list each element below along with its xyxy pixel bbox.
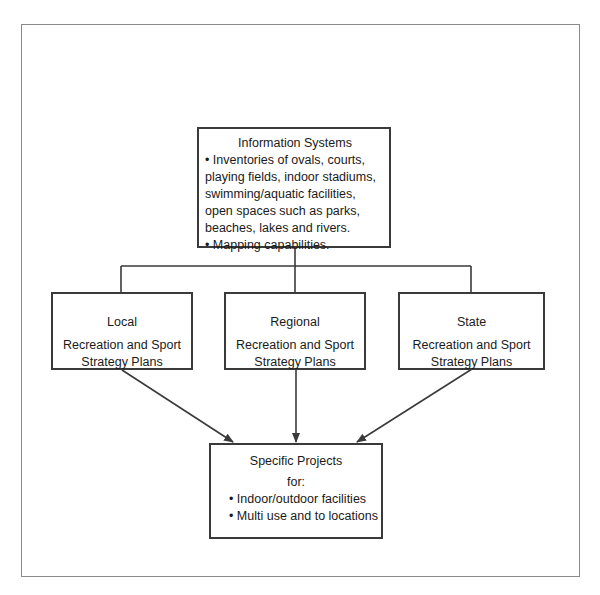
box-line: Recreation and Sport (226, 337, 364, 354)
for-label: for: (211, 474, 381, 491)
box-title: Local (53, 314, 191, 331)
arrow-state-to-projects (357, 369, 472, 442)
regional-plan-box: Regional Recreation and Sport Strategy P… (224, 292, 366, 370)
box-line: Strategy Plans (226, 354, 364, 371)
box-title: State (400, 314, 543, 331)
box-title: Regional (226, 314, 364, 331)
box-title: Specific Projects (211, 453, 381, 470)
bullet: • Multi use and to locations (229, 508, 381, 525)
information-systems-box: Information Systems • Inventories of ova… (197, 127, 391, 248)
state-plan-box: State Recreation and Sport Strategy Plan… (398, 292, 545, 370)
specific-projects-box: Specific Projects for: • Indoor/outdoor … (209, 443, 383, 539)
bullet: • Indoor/outdoor facilities (229, 491, 381, 508)
box-line: Recreation and Sport (400, 337, 543, 354)
box-line: Strategy Plans (53, 354, 191, 371)
box-line: Strategy Plans (400, 354, 543, 371)
local-plan-box: Local Recreation and Sport Strategy Plan… (51, 292, 193, 370)
box-title: Information Systems (205, 135, 385, 152)
bullet: • Inventories of ovals, courts, playing … (205, 152, 385, 237)
box-line: Recreation and Sport (53, 337, 191, 354)
bullet: • Mapping capabilities. (205, 237, 385, 254)
arrow-local-to-projects (122, 370, 233, 442)
